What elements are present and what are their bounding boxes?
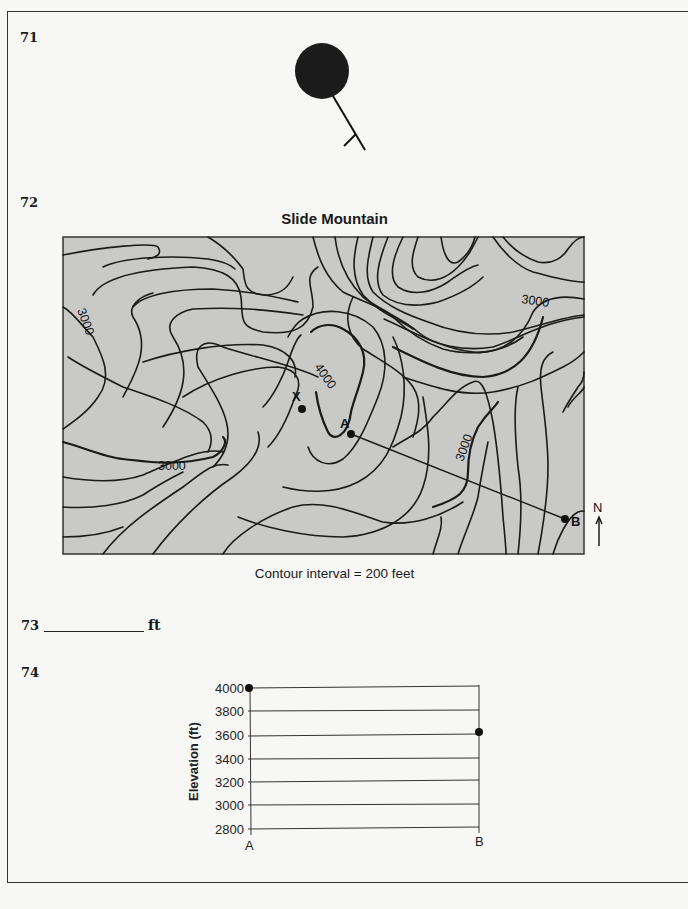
y-axis-label: Elevation (ft) <box>186 722 201 801</box>
y-tick-3000: 3000 <box>215 798 244 813</box>
point-a-label: A <box>340 416 350 431</box>
question-number-71: 71 <box>20 30 38 45</box>
topographic-map: X A B 3000 3000 3000 3000 4000 <box>63 237 588 557</box>
map-title: Slide Mountain <box>0 210 669 227</box>
y-tick-3400: 3400 <box>215 752 244 767</box>
point-x-marker <box>298 405 306 413</box>
y-tick-3200: 3200 <box>215 775 244 790</box>
point-x-label: X <box>292 389 301 404</box>
y-tick-3600: 3600 <box>215 728 244 743</box>
point-a-marker <box>347 430 355 438</box>
question-number-72: 72 <box>20 195 38 210</box>
north-arrow-icon: N <box>590 498 610 548</box>
y-tick-2800: 2800 <box>215 822 244 837</box>
answer-73-blank[interactable] <box>44 631 144 632</box>
question-number-73: 73 <box>21 618 39 633</box>
profile-point-a <box>245 684 253 692</box>
x-label-b: B <box>475 834 484 849</box>
y-tick-3800: 3800 <box>215 704 244 719</box>
x-label-a: A <box>245 838 254 853</box>
north-label: N <box>593 500 602 515</box>
point-b-label: B <box>571 514 580 529</box>
point-b-marker <box>561 515 569 523</box>
contour-label-3000-sw: 3000 <box>158 459 186 473</box>
elevation-profile-grid: 4000 3800 3600 3400 3200 3000 2800 Eleva… <box>180 675 510 875</box>
contour-interval-caption: Contour interval = 200 feet <box>0 566 669 581</box>
y-tick-4000: 4000 <box>215 681 244 696</box>
station-model-icon <box>290 40 390 160</box>
question-number-74: 74 <box>21 665 39 680</box>
profile-point-b <box>475 728 483 736</box>
answer-73-unit: ft <box>148 617 161 633</box>
